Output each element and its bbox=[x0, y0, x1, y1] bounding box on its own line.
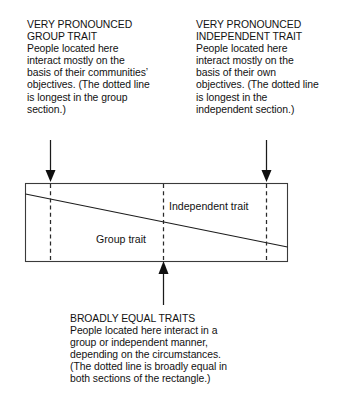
arrow-up-icon-bottom bbox=[159, 261, 169, 305]
inner-label-independent-trait: Independent trait bbox=[169, 200, 249, 212]
arrow-down-icon-right bbox=[262, 140, 272, 182]
inner-label-group-trait: Group trait bbox=[96, 233, 146, 245]
figure-canvas: VERY PRONOUNCED GROUP TRAIT People locat… bbox=[0, 0, 358, 419]
arrow-down-icon-left bbox=[46, 140, 56, 182]
annotation-bottom-broadly-equal-traits: BROADLY EQUAL TRAITS People located here… bbox=[70, 313, 300, 386]
spectrum-rectangle bbox=[26, 184, 288, 262]
